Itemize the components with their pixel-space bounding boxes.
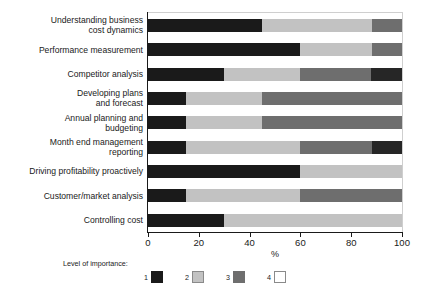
x-tick-label: 40 [244, 237, 255, 248]
legend-item-label: 2 [185, 273, 189, 282]
bar-row [148, 135, 402, 159]
bar-segment-level-3 [262, 116, 402, 129]
bar-segment-level-2 [224, 68, 300, 81]
stacked-bar [148, 141, 402, 154]
legend-item-label: 3 [226, 273, 230, 282]
bar-segment-level-1 [148, 43, 300, 56]
bar-row [148, 110, 402, 134]
legend-item-level-1[interactable]: 1 [144, 271, 163, 283]
category-label-understanding-business-cost-dynamics: Understanding businesscost dynamics [0, 15, 143, 35]
bar-row [148, 159, 402, 183]
legend-swatch-icon [274, 271, 286, 283]
x-tick-label: 0 [145, 237, 150, 248]
x-tick-label: 60 [295, 237, 306, 248]
bar-row [148, 183, 402, 207]
bar-segment-level-2 [262, 19, 371, 32]
bar-segment-level-3 [372, 19, 402, 32]
category-label-driving-profitability-proactively: Driving profitability proactively [0, 166, 143, 176]
bar-row [148, 62, 402, 86]
bar-row [148, 86, 402, 110]
legend-swatch-icon [192, 271, 204, 283]
category-axis-labels: Understanding businesscost dynamics Perf… [0, 13, 146, 232]
legend-item-level-2[interactable]: 2 [185, 271, 204, 283]
bar-row [148, 37, 402, 61]
bar-rows [148, 13, 402, 232]
bar-segment-level-1 [148, 214, 224, 227]
stacked-bar [148, 92, 402, 105]
category-label-month-end-management-reporting: Month end managementreporting [0, 137, 143, 157]
bar-segment-level-3 [372, 43, 402, 56]
bar-row [148, 13, 402, 37]
legend-item-label: 4 [267, 273, 271, 282]
bar-segment-level-3 [300, 68, 371, 81]
stacked-bar [148, 165, 402, 178]
bar-segment-level-2 [300, 165, 402, 178]
legend-items: 1234 [144, 270, 308, 284]
category-label-annual-planning-and-budgeting: Annual planning andbudgeting [0, 113, 143, 133]
stacked-bar [148, 214, 402, 227]
plot-frame-right [402, 12, 403, 233]
bar-segment-level-1 [148, 68, 224, 81]
bar-segment-level-1 [148, 19, 262, 32]
legend-swatch-icon [233, 271, 245, 283]
bar-segment-level-3 [300, 141, 371, 154]
category-label-competitor-analysis: Competitor analysis [0, 69, 143, 79]
category-label-controlling-cost: Controlling cost [0, 215, 143, 225]
bar-segment-level-2 [186, 141, 300, 154]
plot-area [148, 13, 402, 232]
stacked-bar [148, 43, 402, 56]
category-label-developing-plans-and-forecast: Developing plansand forecast [0, 88, 143, 108]
legend-swatch-icon [151, 271, 163, 283]
stacked-bar-chart: Understanding businesscost dynamics Perf… [0, 0, 423, 298]
bar-segment-level-4 [371, 68, 401, 81]
bar-segment-level-4 [372, 141, 402, 154]
stacked-bar [148, 116, 402, 129]
legend-item-label: 1 [144, 273, 148, 282]
bar-segment-level-3 [262, 92, 402, 105]
legend-item-level-3[interactable]: 3 [226, 271, 245, 283]
bar-segment-level-1 [148, 165, 300, 178]
category-label-performance-measurement: Performance measurement [0, 45, 143, 55]
bar-segment-level-1 [148, 116, 186, 129]
bar-segment-level-3 [300, 189, 402, 202]
x-axis-title: % [148, 249, 402, 259]
legend: Level of importance: 1234 [63, 259, 408, 289]
bar-row [148, 208, 402, 232]
x-tick-label: 80 [346, 237, 357, 248]
stacked-bar [148, 189, 402, 202]
bar-segment-level-2 [224, 214, 402, 227]
stacked-bar [148, 68, 402, 81]
x-tick-label: 100 [394, 237, 410, 248]
bar-segment-level-1 [148, 189, 186, 202]
category-label-customer-market-analysis: Customer/market analysis [0, 191, 143, 201]
legend-title: Level of importance: [63, 259, 128, 268]
stacked-bar [148, 19, 402, 32]
bar-segment-level-1 [148, 141, 186, 154]
bar-segment-level-2 [186, 189, 300, 202]
bar-segment-level-2 [186, 92, 262, 105]
bar-segment-level-2 [300, 43, 371, 56]
legend-item-level-4[interactable]: 4 [267, 271, 286, 283]
bar-segment-level-2 [186, 116, 262, 129]
x-tick-label: 20 [194, 237, 205, 248]
bar-segment-level-1 [148, 92, 186, 105]
